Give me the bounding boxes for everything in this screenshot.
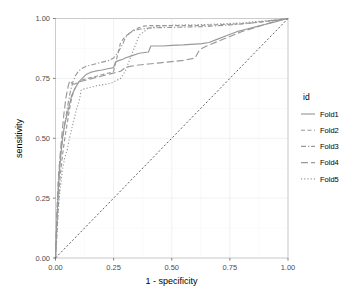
legend-label: Fold2	[320, 126, 339, 135]
y-tick-label: 0.25	[35, 194, 50, 203]
plot-panel	[56, 19, 289, 259]
x-tick-label: 0.75	[223, 263, 238, 272]
legend-label: Fold4	[320, 158, 339, 167]
x-tick-label: 1.00	[281, 263, 296, 272]
y-tick-label: 0.50	[35, 134, 50, 143]
x-axis-title: 1 - specificity	[145, 276, 198, 286]
y-tick-label: 0.00	[35, 254, 50, 263]
x-tick-label: 0.00	[48, 263, 63, 272]
y-tick-label: 0.75	[35, 74, 50, 83]
roc-curve-chart: 0.000.250.500.751.000.000.250.500.751.00…	[0, 0, 359, 305]
x-tick-label: 0.25	[106, 263, 121, 272]
legend-title: id	[303, 92, 310, 102]
legend-label: Fold5	[320, 175, 339, 184]
x-tick-label: 0.50	[164, 263, 179, 272]
y-axis-title: sensitivity	[14, 118, 24, 158]
legend-label: Fold3	[320, 142, 339, 151]
y-tick-label: 1.00	[35, 14, 50, 23]
legend-label: Fold1	[320, 110, 339, 119]
